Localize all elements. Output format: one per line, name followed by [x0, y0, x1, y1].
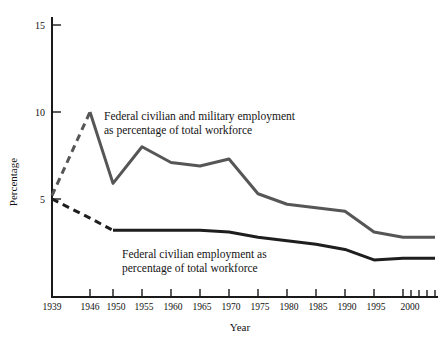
x-tick-label-1939: 1939: [43, 302, 62, 312]
x-tick-label-1960: 1960: [164, 302, 183, 312]
x-tick-label-1946: 1946: [81, 302, 100, 312]
x-tick-label-1975: 1975: [251, 302, 270, 312]
x-tick-label-2000: 2000: [401, 302, 420, 312]
x-tick-label-1955: 1955: [135, 302, 154, 312]
x-tick-marks: [52, 289, 403, 297]
upper-series-label-line1: Federal civilian and military employment: [104, 110, 296, 123]
axes-group: 15 10 5 Percentage: [7, 18, 437, 333]
line-chart: 15 10 5 Percentage: [0, 0, 445, 343]
x-tick-label-1990: 1990: [338, 302, 357, 312]
y-tick-label-5: 5: [40, 194, 45, 205]
x-tick-labels: 1939 1946 1950 1955 1960 1965 1970 1975 …: [43, 302, 420, 312]
series-0-dashed-segment: [52, 112, 90, 196]
x-tick-label-1985: 1985: [309, 302, 328, 312]
x-tick-label-1965: 1965: [193, 302, 212, 312]
x-axis-title: Year: [230, 321, 251, 333]
y-axis-title: Percentage: [7, 158, 19, 206]
annotation-lower: Federal civilian employment as percentag…: [122, 248, 267, 275]
y-tick-label-15: 15: [35, 20, 45, 31]
y-tick-labels: 15 10 5: [35, 20, 45, 205]
annotation-upper: Federal civilian and military employment…: [104, 110, 296, 137]
x-tick-label-1980: 1980: [280, 302, 299, 312]
series-1-dashed-segment: [52, 199, 113, 230]
lower-series-label-line2: percentage of total workforce: [122, 262, 258, 275]
x-tick-label-1995: 1995: [367, 302, 386, 312]
lower-series-label-line1: Federal civilian employment as: [122, 248, 267, 261]
x-minor-tick-marks: [411, 290, 435, 297]
upper-series-label-line2: as percentage of total workforce: [104, 124, 252, 137]
chart-page: 15 10 5 Percentage: [0, 0, 445, 343]
x-tick-label-1950: 1950: [107, 302, 126, 312]
y-tick-marks: [52, 25, 61, 199]
x-tick-label-1970: 1970: [222, 302, 241, 312]
y-tick-label-10: 10: [35, 107, 45, 118]
